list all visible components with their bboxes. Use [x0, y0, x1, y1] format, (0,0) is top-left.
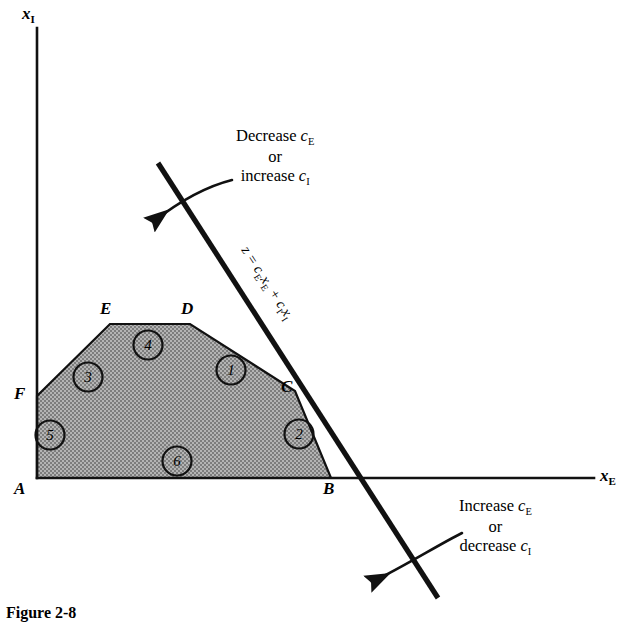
decrease-ce-line-3: increase cI: [236, 167, 314, 188]
x-axis-label-main: x: [600, 466, 609, 485]
increase-ce-line-1-text: Increase: [459, 496, 518, 515]
vertex-label-A: A: [14, 479, 25, 498]
constraint-marker-label-1: 1: [218, 357, 244, 383]
increase-ce-line-2: or: [459, 518, 532, 536]
decrease-ce-line-2: or: [236, 148, 314, 166]
y-axis-label-sub: I: [31, 13, 35, 25]
increase-ce-line-3-text: decrease: [460, 536, 521, 555]
x-axis-label-sub: E: [609, 475, 616, 487]
y-axis-label-main: x: [22, 4, 31, 23]
vertex-label-F: F: [14, 384, 25, 403]
decrease-ce-line-1-var: c: [301, 126, 308, 145]
constraint-marker-label-2: 2: [286, 421, 312, 447]
vertex-label-B: B: [323, 479, 334, 498]
vertex-label-C: C: [281, 377, 292, 396]
increase-ce-line-3: decrease cI: [459, 537, 532, 558]
increase-ce-line-1-sub: E: [525, 506, 531, 517]
vertex-label-D: D: [181, 299, 193, 318]
decrease-ce-line-1-sub: E: [308, 136, 314, 147]
y-axis-label: xI: [22, 4, 35, 26]
vertex-label-E: E: [100, 299, 111, 318]
increase-ce-line-1: Increase cE: [459, 497, 532, 518]
decrease-ce-line-3-text: increase: [241, 166, 299, 185]
figure-caption: Figure 2-8: [6, 604, 76, 622]
constraint-marker-label-3: 3: [75, 364, 101, 390]
decrease-ce-line-1-text: Decrease: [236, 126, 301, 145]
decrease-ce-line-3-sub: I: [306, 176, 310, 187]
lower-rotation-arrow: [372, 533, 462, 582]
increase-ce-annotation: Increase cE or decrease cI: [459, 497, 532, 558]
increase-ce-line-3-sub: I: [528, 546, 532, 557]
increase-ce-line-3-var: c: [520, 536, 527, 555]
constraint-marker-label-6: 6: [164, 448, 190, 474]
decrease-ce-annotation: Decrease cE or increase cI: [236, 127, 314, 188]
x-axis-label: xE: [600, 466, 616, 488]
constraint-marker-label-4: 4: [135, 332, 161, 358]
decrease-ce-line-1: Decrease cE: [236, 127, 314, 148]
constraint-marker-label-5: 5: [37, 422, 63, 448]
